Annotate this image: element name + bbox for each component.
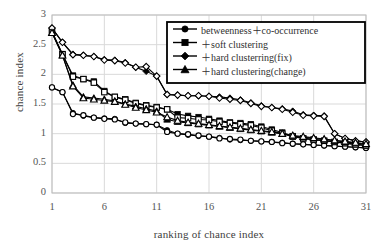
- x-axis-tick-label: 31: [354, 201, 378, 212]
- data-point-square: [182, 39, 188, 45]
- data-point-circle: [280, 141, 285, 146]
- data-point-circle: [301, 142, 306, 147]
- y-axis-tick-label: 1: [24, 127, 46, 138]
- data-point-circle: [70, 111, 75, 116]
- data-point-circle: [165, 129, 170, 134]
- data-point-square: [102, 89, 107, 94]
- chance-index-chart: chance index ranking of chance index 00.…: [0, 0, 386, 248]
- x-axis-title: ranking of chance index: [52, 228, 366, 240]
- data-point-circle: [238, 137, 243, 142]
- data-point-circle: [290, 141, 295, 146]
- data-point-square: [81, 76, 86, 81]
- x-axis-tick-label: 6: [92, 201, 116, 212]
- legend-item-label: ＋hard clustering(change): [201, 63, 306, 78]
- x-axis-tick-label: 26: [302, 201, 326, 212]
- data-point-circle: [112, 117, 117, 122]
- data-point-circle: [185, 132, 190, 137]
- y-axis-tick-label: 2.5: [24, 38, 46, 49]
- x-axis-tick-label: 1: [40, 201, 64, 212]
- data-point-circle: [102, 116, 107, 121]
- data-point-circle: [206, 134, 211, 139]
- y-axis-tick-label: 2: [24, 67, 46, 78]
- y-axis-tick-label: 0.5: [24, 156, 46, 167]
- data-point-circle: [123, 120, 128, 125]
- data-point-circle: [196, 133, 201, 138]
- data-point-circle: [81, 113, 86, 118]
- data-point-circle: [133, 121, 138, 126]
- data-point-square: [91, 80, 96, 85]
- data-point-circle: [154, 122, 159, 127]
- data-point-circle: [248, 138, 253, 143]
- data-point-circle: [182, 26, 188, 32]
- data-point-circle: [227, 136, 232, 141]
- data-point-circle: [269, 139, 274, 144]
- data-point-circle: [91, 115, 96, 120]
- x-axis-tick-label: 21: [249, 201, 273, 212]
- data-point-circle: [49, 85, 54, 90]
- x-axis-tick-label: 11: [145, 201, 169, 212]
- data-point-circle: [144, 122, 149, 127]
- y-axis-tick-label: 1.5: [24, 97, 46, 108]
- data-point-circle: [311, 142, 316, 147]
- data-point-square: [164, 107, 169, 112]
- x-axis-tick-label: 16: [197, 201, 221, 212]
- y-axis-tick-label: 3: [24, 8, 46, 19]
- data-point-circle: [259, 139, 264, 144]
- data-point-circle: [60, 90, 65, 95]
- data-point-circle: [175, 131, 180, 136]
- y-axis-tick-label: 0: [24, 186, 46, 197]
- data-point-circle: [217, 136, 222, 141]
